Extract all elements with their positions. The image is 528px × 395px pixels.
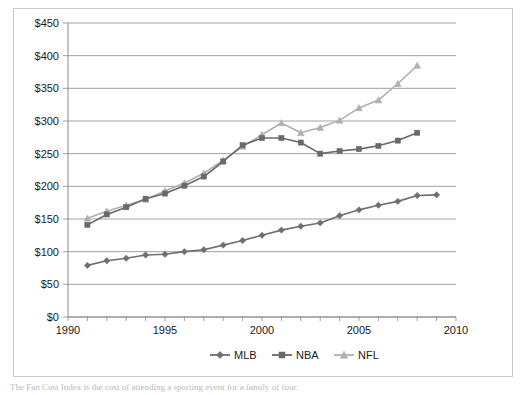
series-line-nba (87, 133, 417, 225)
data-point-nba (279, 135, 284, 140)
data-point-nba (124, 205, 129, 210)
y-axis-tick-label: $0 (47, 311, 59, 323)
gridlines-group: $0$50$100$150$200$250$300$350$400$450 (35, 17, 456, 323)
series-nba (85, 130, 420, 227)
y-axis-tick-label: $450 (35, 17, 59, 29)
data-point-nba (104, 212, 109, 217)
series-mlb (84, 192, 440, 269)
data-point-nba (415, 130, 420, 135)
data-point-nba (318, 151, 323, 156)
data-point-nba (182, 183, 187, 188)
data-point-mlb (220, 242, 226, 248)
data-point-nba (298, 140, 303, 145)
data-point-mlb (104, 258, 110, 264)
data-point-nba (356, 146, 361, 151)
data-point-nfl (278, 120, 285, 126)
data-point-mlb (317, 220, 323, 226)
data-point-mlb (375, 202, 381, 208)
data-point-mlb (278, 227, 284, 233)
data-point-nba (395, 138, 400, 143)
data-point-mlb (123, 255, 129, 261)
chart-legend: MLBNBANFL (210, 349, 379, 361)
y-axis-tick-label: $100 (35, 246, 59, 258)
x-axis-tick-label: 1990 (56, 324, 80, 336)
legend-marker-mlb (216, 351, 223, 358)
data-point-mlb (414, 192, 420, 198)
y-axis-tick-label: $150 (35, 213, 59, 225)
x-axis-tick-label: 1995 (153, 324, 177, 336)
data-point-nba (240, 143, 245, 148)
legend-label-mlb: MLB (234, 349, 257, 361)
x-axis-tick-label: 2005 (347, 324, 371, 336)
data-point-nfl (414, 62, 421, 68)
legend-label-nfl: NFL (358, 349, 379, 361)
y-axis-tick-label: $50 (41, 278, 59, 290)
data-point-nba (259, 135, 264, 140)
x-axis-tick-label: 2010 (444, 324, 468, 336)
data-point-nba (337, 148, 342, 153)
y-axis-tick-label: $300 (35, 115, 59, 127)
chart-container: $0$50$100$150$200$250$300$350$400$450199… (0, 0, 528, 395)
figure-caption: The Fan Cost Index is the cost of attend… (10, 381, 298, 394)
series-line-mlb (87, 195, 436, 266)
data-point-nba (376, 143, 381, 148)
data-point-nba (85, 222, 90, 227)
data-point-mlb (181, 248, 187, 254)
data-point-mlb (336, 213, 342, 219)
legend-marker-nba (279, 352, 285, 358)
data-point-nba (162, 191, 167, 196)
data-point-mlb (142, 252, 148, 258)
data-point-mlb (433, 192, 439, 198)
y-axis-tick-label: $350 (35, 82, 59, 94)
data-point-mlb (239, 237, 245, 243)
data-point-mlb (395, 198, 401, 204)
data-point-mlb (298, 223, 304, 229)
data-point-nba (201, 174, 206, 179)
y-axis-tick-label: $200 (35, 180, 59, 192)
axes-group (68, 23, 456, 317)
data-point-nba (143, 196, 148, 201)
y-axis-tick-label: $250 (35, 148, 59, 160)
data-point-mlb (84, 262, 90, 268)
legend-label-nba: NBA (296, 349, 319, 361)
line-chart-plot: $0$50$100$150$200$250$300$350$400$450199… (0, 0, 528, 395)
x-axis-group: 19901995200020052010 (56, 317, 468, 336)
data-point-mlb (259, 232, 265, 238)
y-axis-tick-label: $400 (35, 50, 59, 62)
data-point-mlb (356, 207, 362, 213)
data-point-nba (221, 159, 226, 164)
x-axis-tick-label: 2000 (250, 324, 274, 336)
